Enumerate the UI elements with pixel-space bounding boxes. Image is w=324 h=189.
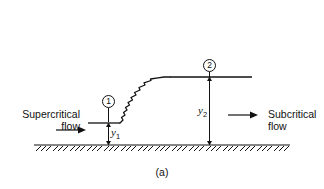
subcritical-flow-label-line1: Subcritical (268, 108, 316, 120)
depth-label-y2: y2 (198, 104, 207, 119)
depth-label-y2-subscript: 2 (203, 110, 207, 119)
depth-label-y1-subscript: 1 (116, 132, 120, 141)
supercritical-flow-label-line2: flow (8, 120, 80, 132)
subcritical-flow-label-line2: flow (268, 120, 324, 132)
section-marker-2-label: 2 (207, 60, 212, 70)
section-marker-1: 1 (102, 95, 115, 108)
section-marker-1-label: 1 (106, 96, 111, 106)
figure-caption: (a) (0, 166, 324, 178)
section-marker-2: 2 (203, 59, 216, 72)
subcritical-flow-label: Subcritical flow (268, 108, 324, 132)
hydraulic-jump-surface (120, 77, 170, 123)
hydraulic-jump-figure: Supercritical flow Subcritical flow 1 2 … (0, 0, 324, 189)
supercritical-flow-label: Supercritical flow (8, 108, 80, 132)
bed-hatching (36, 146, 289, 151)
downstream-flow-arrow-icon (228, 112, 258, 119)
supercritical-flow-label-line1: Supercritical (22, 108, 80, 120)
depth-label-y1: y1 (111, 126, 120, 141)
diagram-canvas (0, 0, 324, 189)
depth-dimension-y2 (207, 77, 212, 146)
